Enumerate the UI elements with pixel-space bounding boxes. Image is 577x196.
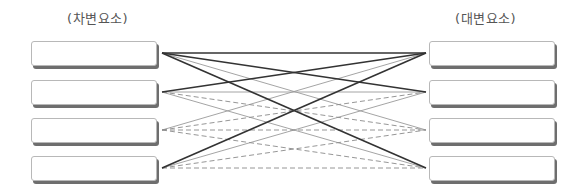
connection-lines	[0, 0, 577, 196]
